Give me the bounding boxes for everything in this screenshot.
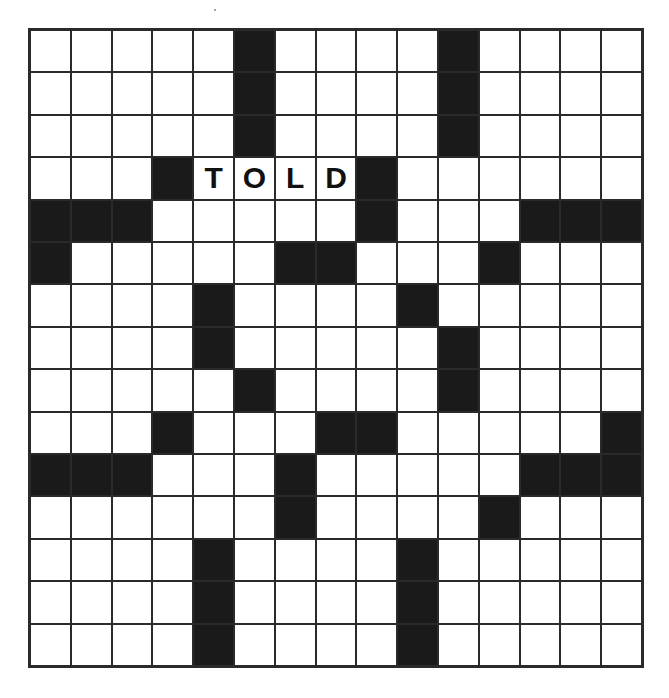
crossword-cell[interactable] — [561, 285, 600, 325]
crossword-cell[interactable] — [561, 540, 600, 580]
crossword-cell[interactable] — [602, 328, 641, 368]
crossword-cell[interactable] — [561, 31, 600, 71]
crossword-cell[interactable]: T — [194, 158, 233, 198]
crossword-cell[interactable] — [113, 116, 152, 156]
crossword-cell[interactable] — [31, 285, 70, 325]
crossword-cell[interactable] — [521, 370, 560, 410]
crossword-cell[interactable] — [153, 201, 192, 241]
crossword-cell[interactable] — [72, 497, 111, 537]
crossword-cell[interactable] — [521, 158, 560, 198]
crossword-cell[interactable] — [317, 497, 356, 537]
crossword-cell[interactable] — [113, 370, 152, 410]
crossword-cell[interactable] — [113, 31, 152, 71]
crossword-cell[interactable] — [602, 116, 641, 156]
crossword-cell[interactable] — [439, 413, 478, 453]
crossword-cell[interactable]: O — [235, 158, 274, 198]
crossword-cell[interactable] — [72, 582, 111, 622]
crossword-cell[interactable] — [113, 73, 152, 113]
crossword-cell[interactable] — [235, 285, 274, 325]
crossword-cell[interactable] — [235, 413, 274, 453]
crossword-cell[interactable] — [357, 455, 396, 495]
crossword-cell[interactable] — [113, 497, 152, 537]
crossword-cell[interactable] — [317, 540, 356, 580]
crossword-cell[interactable] — [194, 116, 233, 156]
crossword-cell[interactable] — [31, 158, 70, 198]
crossword-cell[interactable] — [357, 497, 396, 537]
crossword-cell[interactable] — [398, 31, 437, 71]
crossword-cell[interactable] — [602, 625, 641, 665]
crossword-cell[interactable] — [521, 497, 560, 537]
crossword-cell[interactable] — [31, 31, 70, 71]
crossword-cell[interactable] — [480, 328, 519, 368]
crossword-cell[interactable] — [439, 497, 478, 537]
crossword-cell[interactable] — [602, 31, 641, 71]
crossword-cell[interactable] — [357, 582, 396, 622]
crossword-cell[interactable] — [153, 285, 192, 325]
crossword-cell[interactable] — [194, 497, 233, 537]
crossword-cell[interactable] — [561, 413, 600, 453]
crossword-cell[interactable] — [561, 582, 600, 622]
crossword-cell[interactable] — [317, 31, 356, 71]
crossword-cell[interactable] — [480, 625, 519, 665]
crossword-cell[interactable] — [276, 31, 315, 71]
crossword-cell[interactable] — [521, 625, 560, 665]
crossword-cell[interactable] — [480, 201, 519, 241]
crossword-cell[interactable] — [31, 497, 70, 537]
crossword-cell[interactable] — [194, 31, 233, 71]
crossword-cell[interactable] — [276, 413, 315, 453]
crossword-cell[interactable] — [521, 243, 560, 283]
crossword-cell[interactable] — [276, 328, 315, 368]
crossword-cell[interactable] — [602, 73, 641, 113]
crossword-cell[interactable] — [398, 370, 437, 410]
crossword-cell[interactable] — [480, 413, 519, 453]
crossword-cell[interactable] — [398, 243, 437, 283]
crossword-cell[interactable] — [480, 285, 519, 325]
crossword-cell[interactable] — [276, 582, 315, 622]
crossword-cell[interactable] — [72, 31, 111, 71]
crossword-cell[interactable] — [113, 413, 152, 453]
crossword-cell[interactable] — [357, 285, 396, 325]
crossword-cell[interactable] — [602, 582, 641, 622]
crossword-cell[interactable] — [153, 497, 192, 537]
crossword-cell[interactable] — [72, 625, 111, 665]
crossword-cell[interactable] — [235, 201, 274, 241]
crossword-cell[interactable] — [113, 625, 152, 665]
crossword-cell[interactable] — [153, 243, 192, 283]
crossword-cell[interactable] — [72, 540, 111, 580]
crossword-cell[interactable] — [235, 625, 274, 665]
crossword-cell[interactable] — [31, 116, 70, 156]
crossword-cell[interactable] — [561, 497, 600, 537]
crossword-cell[interactable] — [317, 201, 356, 241]
crossword-cell[interactable] — [398, 116, 437, 156]
crossword-cell[interactable] — [235, 540, 274, 580]
crossword-cell[interactable] — [72, 73, 111, 113]
crossword-cell[interactable] — [398, 73, 437, 113]
crossword-cell[interactable] — [194, 201, 233, 241]
crossword-cell[interactable] — [357, 73, 396, 113]
crossword-cell[interactable] — [194, 243, 233, 283]
crossword-cell[interactable] — [317, 455, 356, 495]
crossword-cell[interactable] — [276, 370, 315, 410]
crossword-cell[interactable] — [153, 31, 192, 71]
crossword-cell[interactable] — [153, 116, 192, 156]
crossword-cell[interactable] — [357, 328, 396, 368]
crossword-cell[interactable] — [31, 582, 70, 622]
crossword-cell[interactable] — [439, 285, 478, 325]
crossword-cell[interactable] — [357, 31, 396, 71]
crossword-cell[interactable] — [480, 158, 519, 198]
crossword-cell[interactable] — [194, 370, 233, 410]
crossword-cell[interactable] — [194, 413, 233, 453]
crossword-cell[interactable] — [561, 158, 600, 198]
crossword-cell[interactable] — [153, 455, 192, 495]
crossword-cell[interactable] — [480, 73, 519, 113]
crossword-cell[interactable] — [72, 328, 111, 368]
crossword-cell[interactable] — [153, 328, 192, 368]
crossword-cell[interactable] — [113, 158, 152, 198]
crossword-cell[interactable] — [194, 73, 233, 113]
crossword-cell[interactable] — [317, 625, 356, 665]
crossword-cell[interactable] — [561, 243, 600, 283]
crossword-cell[interactable] — [521, 328, 560, 368]
crossword-cell[interactable] — [113, 582, 152, 622]
crossword-cell[interactable] — [235, 455, 274, 495]
crossword-cell[interactable] — [561, 73, 600, 113]
